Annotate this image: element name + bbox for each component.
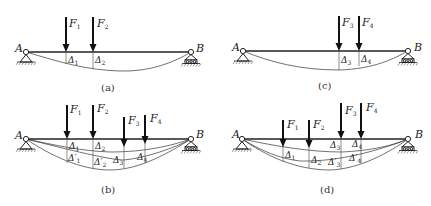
force-label-f1: F1 xyxy=(69,103,81,116)
support-label-a: A xyxy=(231,128,240,141)
force-label-f2: F2 xyxy=(96,102,109,115)
deflection-label-1: Δ1 xyxy=(67,55,78,66)
deflection-label-2-prime: Δ′2 xyxy=(93,157,107,168)
deflection-label-2: Δ2 xyxy=(310,155,322,166)
panel-a: F1 F2 Δ1 Δ2 A B (a) xyxy=(14,17,204,93)
force-label-f4: F4 xyxy=(149,112,162,125)
support-label-a: A xyxy=(14,129,23,142)
deflection-curve xyxy=(26,52,191,71)
deflection-label-3: Δ3 xyxy=(112,155,124,166)
deflection-curve-middle xyxy=(242,139,408,161)
beam-deflection-figure: F1 F2 Δ1 Δ2 A B (a) F3 F4 Δ3 Δ4 A B (c) xyxy=(0,0,431,206)
deflection-curve-lower xyxy=(26,139,191,170)
force-arrow-f3 xyxy=(338,103,345,139)
force-arrow-f2 xyxy=(306,120,313,148)
force-arrow-f1 xyxy=(280,120,287,147)
deflection-curve-upper xyxy=(242,139,408,152)
deflection-curve xyxy=(243,51,408,70)
force-label-f4: F4 xyxy=(361,16,374,29)
support-label-a: A xyxy=(14,42,23,55)
support-label-b: B xyxy=(195,42,204,55)
force-arrow-f2 xyxy=(90,105,97,139)
force-arrow-f2 xyxy=(90,17,97,52)
deflection-label-4: Δ4 xyxy=(360,54,372,65)
panel-caption: (c) xyxy=(318,80,332,91)
force-label-f2: F2 xyxy=(96,17,109,30)
deflection-label-1-prime: Δ′1 xyxy=(67,153,80,164)
support-label-b: B xyxy=(414,128,423,141)
support-label-b: B xyxy=(413,41,422,54)
support-label-b: B xyxy=(195,128,204,141)
deflection-label-3: Δ3 xyxy=(340,55,352,66)
deflection-label-3: Δ3 xyxy=(329,140,341,151)
panel-caption: (a) xyxy=(101,82,115,93)
force-label-f3: F3 xyxy=(344,104,357,117)
deflection-label-2: Δ2 xyxy=(94,141,106,152)
force-arrow-f3 xyxy=(121,117,128,147)
support-label-a: A xyxy=(231,41,240,54)
deflection-label-2: Δ2 xyxy=(94,55,106,66)
deflection-label-1: Δ1 xyxy=(284,150,295,161)
panel-d: F1 F2 F3 F4 Δ3 Δ4 Δ1 Δ2 Δ′3 Δ′4 A B (d) xyxy=(231,101,423,195)
force-label-f1: F1 xyxy=(286,118,298,131)
force-label-f3: F3 xyxy=(341,16,354,29)
panel-b: F1 F2 F3 F4 Δ1 Δ2 Δ′1 Δ′2 Δ3 Δ4 A B (b) xyxy=(14,102,204,195)
deflection-curve-middle xyxy=(26,139,191,160)
force-label-f1: F1 xyxy=(68,17,80,30)
deflection-label-1: Δ1 xyxy=(68,141,79,152)
force-label-f2: F2 xyxy=(312,118,325,131)
panel-c: F3 F4 Δ3 Δ4 A B (c) xyxy=(231,16,422,91)
deflection-label-4: Δ4 xyxy=(136,152,148,163)
force-arrow-f4 xyxy=(358,103,365,139)
panel-caption: (d) xyxy=(320,184,334,195)
force-label-f3: F3 xyxy=(127,114,140,127)
force-label-f4: F4 xyxy=(365,101,378,114)
panel-caption: (b) xyxy=(101,184,115,195)
